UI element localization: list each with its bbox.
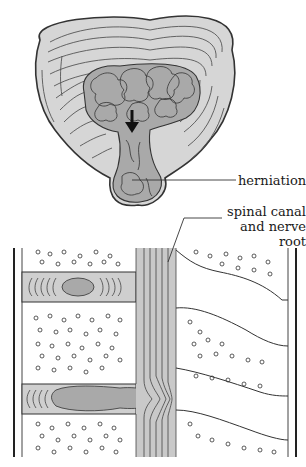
herniation-label: herniation xyxy=(238,173,306,188)
spinal-canal-label-line2: and nerve root xyxy=(226,219,306,249)
spinal-canal-label: spinal canal and nerve root xyxy=(226,204,306,249)
spine-sagittal-view xyxy=(14,218,296,457)
disc-axial-view xyxy=(36,16,236,205)
spinal-canal-label-line1: spinal canal xyxy=(226,204,306,219)
